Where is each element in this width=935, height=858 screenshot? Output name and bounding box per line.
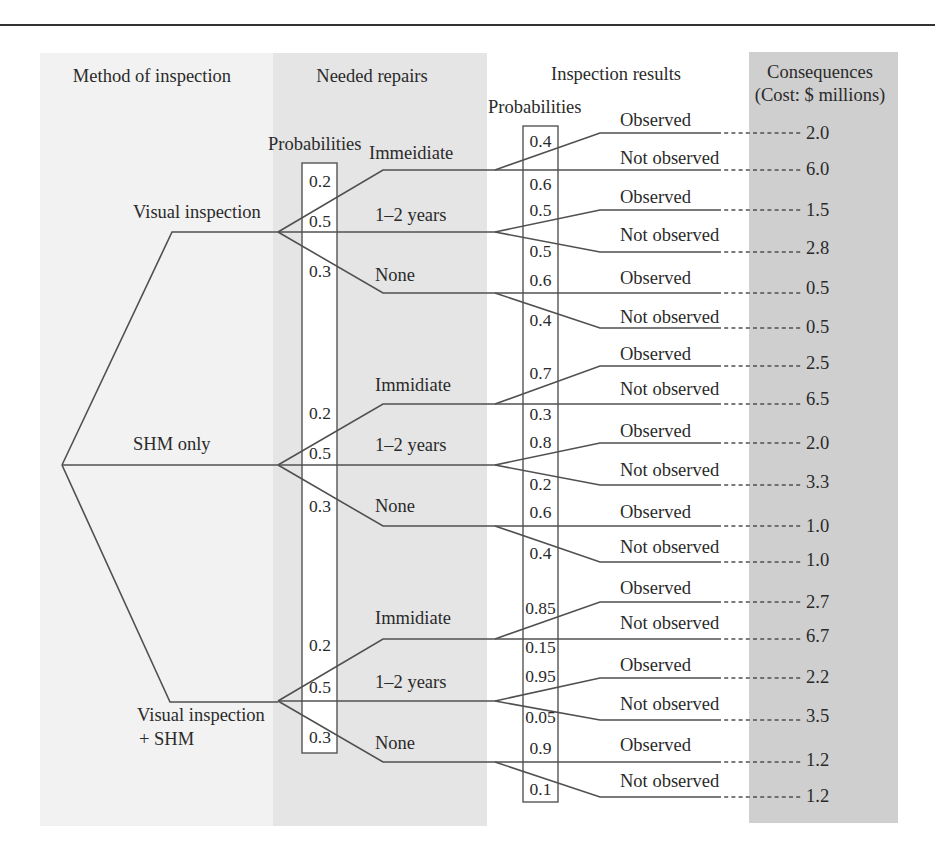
method-label-visual-plus-shm-line2: + SHM [139,729,194,749]
cost-value: 0.5 [806,317,829,337]
cost-value: 1.0 [806,550,829,570]
result-probability: 0.2 [530,474,552,494]
cost-value: 2.2 [806,667,829,687]
cost-value: 6.0 [806,159,829,179]
result-label: Observed [620,578,692,598]
repair-label: 1–2 years [375,205,446,225]
result-label: Not observed [620,379,720,399]
result-probability: 0.05 [525,707,556,727]
method-label-shm-only: SHM only [133,434,211,454]
result-label: Observed [620,502,692,522]
cost-value: 2.5 [806,353,829,373]
cost-value: 2.8 [806,238,829,258]
header-inspection-results: Inspection results [551,64,681,84]
result-label: Observed [620,187,692,207]
decision-tree-figure: Method of inspection Needed repairs Insp… [0,0,935,858]
result-probability: 0.5 [530,200,552,220]
result-label: Not observed [620,613,720,633]
cost-value: 1.2 [806,786,829,806]
result-label: Observed [620,110,692,130]
result-label: Not observed [620,694,720,714]
repair-label: Immidiate [375,375,451,395]
cost-value: 1.5 [806,200,829,220]
result-label: Observed [620,655,692,675]
result-probability: 0.4 [530,310,552,330]
cost-value: 6.5 [806,389,829,409]
cost-value: 1.2 [806,750,829,770]
repair-probability: 0.5 [309,211,331,231]
repair-probability: 0.5 [309,677,331,697]
result-label: Not observed [620,307,720,327]
repair-probability: 0.2 [309,403,331,423]
decision-tree-svg: Method of inspection Needed repairs Insp… [0,0,935,858]
result-label: Observed [620,268,692,288]
method-label-visual-plus-shm-line1: Visual inspection [137,705,265,725]
result-probability: 0.4 [530,131,552,151]
cost-value: 3.5 [806,706,829,726]
repair-probability: 0.3 [309,261,331,281]
result-probability: 0.95 [525,666,556,686]
result-label: Not observed [620,460,720,480]
cost-value: 0.5 [806,278,829,298]
header-consequences-unit: (Cost: $ millions) [755,85,886,106]
header-needed-repairs: Needed repairs [316,66,427,86]
result-label: Observed [620,421,692,441]
result-label: Not observed [620,537,720,557]
cost-value: 2.0 [806,433,829,453]
result-probability: 0.9 [530,738,552,758]
result-probability: 0.15 [525,637,556,657]
result-label: Observed [620,735,692,755]
result-probability: 0.4 [530,543,552,563]
result-probability: 0.1 [530,779,552,799]
result-probability: 0.85 [525,598,556,618]
result-probability: 0.6 [530,270,552,290]
header-method: Method of inspection [73,66,231,86]
repair-probability: 0.2 [309,171,331,191]
result-probability: 0.5 [530,241,552,261]
result-label: Not observed [620,225,720,245]
result-probability: 0.7 [530,363,552,383]
cost-value: 3.3 [806,472,829,492]
result-label: Not observed [620,771,720,791]
repairs-probabilities-label: Probabilities [268,134,362,154]
cost-value: 6.7 [806,626,829,646]
repair-probability: 0.2 [309,635,331,655]
results-probability-box [523,126,558,802]
repair-label: Immidiate [375,608,451,628]
repair-probability: 0.3 [309,496,331,516]
result-probability: 0.3 [530,404,552,424]
result-probability: 0.8 [530,432,552,452]
repair-label: Immeidiate [369,143,453,163]
result-label: Observed [620,344,692,364]
result-probability: 0.6 [530,174,552,194]
repair-label: 1–2 years [375,435,446,455]
cost-value: 2.7 [806,592,829,612]
repair-label: None [375,496,415,516]
header-consequences: Consequences [767,62,873,82]
results-probabilities-label: Probabilities [488,97,582,117]
repair-probability: 0.5 [309,443,331,463]
cost-value: 2.0 [806,123,829,143]
repair-label: None [375,733,415,753]
result-probability: 0.6 [530,502,552,522]
cost-value: 1.0 [806,516,829,536]
method-label-visual-inspection: Visual inspection [133,202,261,222]
repair-probability: 0.3 [309,727,331,747]
repair-label: None [375,265,415,285]
result-label: Not observed [620,148,720,168]
repair-label: 1–2 years [375,672,446,692]
